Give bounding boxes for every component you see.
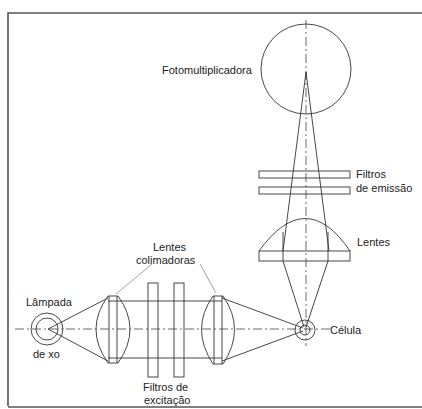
excitation-filter-2: [174, 283, 184, 377]
label-excitation-filters-2: excitação: [144, 394, 190, 406]
lens2-right-arc: [223, 296, 235, 364]
label-lamp-2: de xo: [33, 348, 60, 360]
emission-beam-right: [306, 72, 329, 251]
lens1-left-arc: [96, 296, 108, 363]
emission-filter-2: [259, 187, 350, 194]
emission-filter-1: [259, 171, 350, 178]
collimating-leader-right: [200, 264, 216, 293]
label-emission-filters-1: Filtros: [356, 168, 386, 180]
label-photomultiplier: Fotomultiplicadora: [162, 64, 253, 76]
emission-converge-left: [283, 261, 304, 327]
label-excitation-filters-1: Filtros de: [143, 381, 188, 393]
label-lamp-1: Lâmpada: [26, 296, 73, 308]
collimating-leader-left: [116, 264, 152, 294]
collimating-lens-1: [96, 296, 130, 363]
emission-converge-right: [306, 261, 328, 327]
label-collimating-lenses-1: Lentes: [153, 241, 187, 253]
lens2-left-arc: [202, 296, 214, 364]
label-emission-filters-2: de emissão: [356, 182, 412, 194]
emission-lens-base: [259, 251, 350, 261]
lens1-right-arc: [118, 296, 130, 363]
cell-outer-circle: [295, 320, 315, 340]
label-emission-lens: Lentes: [357, 236, 391, 248]
excitation-filter-1: [148, 283, 158, 377]
lamp: [31, 313, 63, 345]
emission-lens-arc: [259, 219, 350, 252]
label-collimating-lenses-2: colimadoras: [136, 254, 196, 266]
cell: [295, 320, 315, 340]
collimating-lens-2: [202, 296, 235, 364]
optical-diagram: Fotomultiplicadora Filtros de emissão Le…: [0, 0, 422, 409]
label-cell: Célula: [330, 324, 362, 336]
emission-lens: [259, 219, 350, 262]
cell-inner-circle: [300, 325, 310, 335]
